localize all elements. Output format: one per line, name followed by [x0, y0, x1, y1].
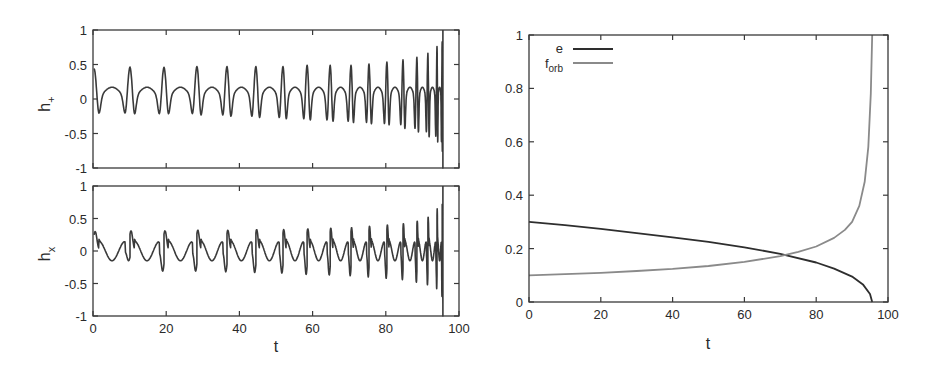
y-tick-label: 1	[80, 23, 87, 38]
f_orb-curve	[529, 35, 872, 275]
h-plus-waveform	[94, 30, 443, 168]
y-tick-label: 1	[80, 179, 87, 194]
y-tick-label: 0.2	[505, 242, 523, 257]
x-tick-label: 80	[379, 321, 393, 336]
h-plus-ylabel: h+	[36, 96, 57, 111]
x-tick-label: 100	[877, 307, 899, 322]
legend-label-f-orb: forb	[545, 56, 564, 74]
x-tick-label: 0	[525, 307, 532, 322]
y-tick-label: -1	[75, 161, 87, 176]
y-tick-label: -0.5	[65, 127, 87, 142]
y-tick-label: 0.5	[69, 58, 87, 73]
y-tick-label: 0	[516, 295, 523, 310]
figure: -1-0.500.51 h+ 020406080100-1-0.500.51 h…	[0, 0, 938, 369]
y-tick-label: 0.4	[505, 188, 523, 203]
legend-item-f-orb: forb	[545, 56, 613, 74]
h-cross-panel: 020406080100-1-0.500.51 hx t	[36, 179, 470, 355]
y-tick-label: -0.5	[65, 277, 87, 292]
x-tick-label: 20	[594, 307, 608, 322]
e-curve	[529, 222, 872, 302]
hx-curve	[94, 186, 443, 316]
orbit-params-curves	[529, 35, 872, 302]
x-tick-label: 40	[665, 307, 679, 322]
y-tick-label: 0	[80, 92, 87, 107]
h-cross-frame	[93, 186, 459, 316]
x-tick-label: 20	[159, 321, 173, 336]
y-tick-label: 0.5	[69, 212, 87, 227]
h-cross-waveform	[94, 186, 443, 316]
h-plus-panel: -1-0.500.51 h+	[36, 23, 459, 176]
orbit-params-xlabel: t	[706, 335, 711, 352]
h-cross-ylabel: hx	[36, 246, 57, 261]
y-tick-label: -1	[75, 309, 87, 324]
x-tick-label: 80	[809, 307, 823, 322]
x-tick-label: 0	[89, 321, 96, 336]
y-tick-label: 0	[80, 244, 87, 259]
orbit-params-ticks: 02040608010000.20.40.60.81	[505, 28, 899, 322]
x-tick-label: 40	[232, 321, 246, 336]
y-tick-label: 0.8	[505, 81, 523, 96]
orbit-params-panel: 02040608010000.20.40.60.81 t e forb	[505, 28, 899, 352]
y-tick-label: 0.6	[505, 135, 523, 150]
x-tick-label: 100	[448, 321, 470, 336]
x-tick-label: 60	[737, 307, 751, 322]
legend: e forb	[545, 41, 613, 74]
h+-curve	[94, 30, 443, 168]
x-tick-label: 60	[305, 321, 319, 336]
legend-item-e: e	[556, 41, 613, 56]
legend-label-e: e	[556, 41, 563, 56]
orbit-params-frame	[529, 35, 888, 302]
y-tick-label: 1	[516, 28, 523, 43]
h-cross-xlabel: t	[274, 338, 279, 355]
